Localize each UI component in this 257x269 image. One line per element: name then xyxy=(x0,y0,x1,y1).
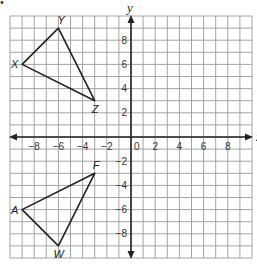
x-tick-label: 6 xyxy=(201,141,207,152)
vertex-label-w: W xyxy=(53,248,65,260)
y-tick-label: 4 xyxy=(121,83,127,94)
x-axis-label: x xyxy=(255,129,257,144)
y-tick-label: 6 xyxy=(121,59,127,70)
y-tick-label: −8 xyxy=(116,228,128,239)
coordinate-plane: xy −8−6−4−2024688642−2−4−6−8 XYZAFW xyxy=(0,0,257,269)
y-tick-label: −6 xyxy=(116,204,128,215)
x-tick-label: 2 xyxy=(152,141,158,152)
x-tick-label: −4 xyxy=(77,141,89,152)
vertex-label-z: Z xyxy=(91,103,100,115)
y-tick-label: −2 xyxy=(116,156,128,167)
y-axis-label: y xyxy=(125,0,133,15)
x-tick-label: −6 xyxy=(53,141,65,152)
y-tick-label: −4 xyxy=(116,180,128,191)
vertex-label-x: X xyxy=(10,58,19,70)
vertex-label-y: Y xyxy=(57,14,65,26)
x-tick-label: 0 xyxy=(134,141,140,152)
y-tick-label: 2 xyxy=(121,107,127,118)
x-tick-label: 4 xyxy=(177,141,183,152)
vertex-label-a: A xyxy=(10,204,18,216)
x-tick-label: −8 xyxy=(28,141,40,152)
y-tick-label: 8 xyxy=(121,35,127,46)
x-tick-label: −2 xyxy=(101,141,113,152)
x-tick-label: 8 xyxy=(225,141,231,152)
